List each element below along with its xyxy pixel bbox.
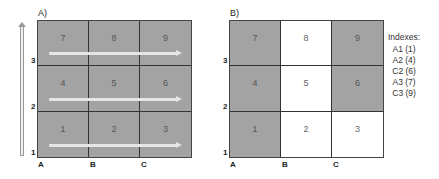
cell-number: 2 xyxy=(303,124,308,134)
col-label-c: C xyxy=(333,160,339,169)
grid-cell: 8 xyxy=(89,21,140,66)
grid-cell: 7 xyxy=(230,21,281,66)
cell-number: 2 xyxy=(111,124,116,134)
grid-cell: 8 xyxy=(281,21,332,66)
row-label-2: 2 xyxy=(31,102,35,111)
row-label-2: 2 xyxy=(223,102,227,111)
cell-number: 8 xyxy=(303,33,308,43)
cell-number: 9 xyxy=(355,33,360,43)
panel-b-grid: 7 8 9 4 5 6 1 2 3 xyxy=(229,20,384,158)
index-item: A2 (4) xyxy=(388,55,420,66)
grid-cell: 5 xyxy=(89,66,140,111)
row-label-3: 3 xyxy=(31,56,35,65)
row-scan-arrow-icon xyxy=(49,98,177,101)
grid-cell: 3 xyxy=(332,112,383,157)
cell-number: 7 xyxy=(60,33,65,43)
col-label-b: B xyxy=(90,160,96,169)
row-scan-arrow-icon xyxy=(49,144,177,147)
index-item: C2 (6) xyxy=(388,66,420,77)
col-label-a: A xyxy=(38,160,44,169)
indexes-title: Indexes: xyxy=(388,32,420,43)
vertical-scan-arrow-icon xyxy=(20,26,24,156)
panel-a-label: A) xyxy=(38,8,47,18)
cell-number: 5 xyxy=(111,78,116,88)
cell-number: 1 xyxy=(60,124,65,134)
grid-cell: 2 xyxy=(281,112,332,157)
cell-number: 3 xyxy=(355,124,360,134)
panel-a-grid: 7 8 9 4 5 6 1 2 3 xyxy=(37,20,192,158)
cell-number: 6 xyxy=(355,78,360,88)
index-item: A3 (7) xyxy=(388,77,420,88)
cell-number: 4 xyxy=(60,78,65,88)
grid-cell: 6 xyxy=(140,66,191,111)
grid-cell: 4 xyxy=(38,66,89,111)
panel-b-label: B) xyxy=(230,8,239,18)
cell-number: 6 xyxy=(163,78,168,88)
index-item: A1 (1) xyxy=(388,44,420,55)
col-label-c: C xyxy=(141,160,147,169)
cell-number: 4 xyxy=(252,78,257,88)
indexes-legend: Indexes: A1 (1) A2 (4) C2 (6) A3 (7) C3 … xyxy=(388,32,420,99)
cell-number: 8 xyxy=(111,33,116,43)
grid-cell: 4 xyxy=(230,66,281,111)
grid-cell: 2 xyxy=(89,112,140,157)
col-label-b: B xyxy=(282,160,288,169)
grid-cell: 7 xyxy=(38,21,89,66)
cell-number: 1 xyxy=(252,124,257,134)
cell-number: 9 xyxy=(163,33,168,43)
row-label-3: 3 xyxy=(223,56,227,65)
cell-number: 7 xyxy=(252,33,257,43)
grid-cell: 6 xyxy=(332,66,383,111)
col-label-a: A xyxy=(230,160,236,169)
grid-cell: 1 xyxy=(38,112,89,157)
row-scan-arrow-icon xyxy=(49,52,177,55)
row-label-1: 1 xyxy=(31,148,35,157)
grid-cell: 3 xyxy=(140,112,191,157)
index-item: C3 (9) xyxy=(388,88,420,99)
grid-cell: 5 xyxy=(281,66,332,111)
grid-cell: 9 xyxy=(140,21,191,66)
cell-number: 5 xyxy=(303,78,308,88)
grid-cell: 1 xyxy=(230,112,281,157)
grid-cell: 9 xyxy=(332,21,383,66)
cell-number: 3 xyxy=(163,124,168,134)
row-label-1: 1 xyxy=(223,148,227,157)
